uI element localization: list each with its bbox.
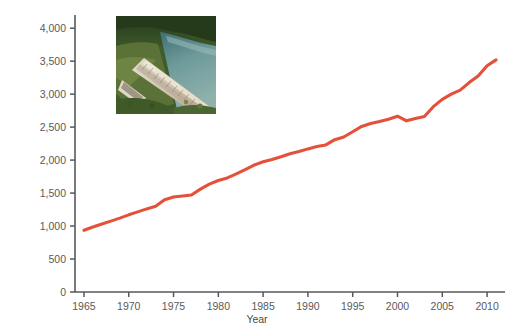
y-axis-tick-label: 1,000 [12,220,66,232]
y-axis-tick-label: 500 [12,253,66,265]
hydroelectric-generation-chart: Hydroelectric generation (billion kilowa… [0,0,514,333]
y-axis-tick-label: 3,500 [12,55,66,67]
y-axis-tick-label: 2,000 [12,154,66,166]
x-axis-tick-label: 2010 [475,300,498,312]
plot-area [0,0,514,333]
x-axis-tick-label: 1980 [207,300,230,312]
x-axis-tick-label: 1985 [251,300,274,312]
x-axis-tick-label: 2005 [431,300,454,312]
x-axis-tick-label: 1975 [162,300,185,312]
x-axis-tick-label: 1970 [117,300,140,312]
y-axis-tick-label: 4,000 [12,22,66,34]
dam-photo-inset [116,16,216,114]
x-axis-tick-label: 1965 [72,300,95,312]
x-axis-tick-label: 2000 [386,300,409,312]
y-axis-tick-label: 3,000 [12,88,66,100]
y-axis-tick-label: 0 [12,286,66,298]
dam-photo-illustration [116,16,216,114]
y-axis-tick-label: 1,500 [12,187,66,199]
x-axis-tick-label: 1995 [341,300,364,312]
y-axis-tick-label: 2,500 [12,121,66,133]
x-axis-tick-label: 1990 [296,300,319,312]
